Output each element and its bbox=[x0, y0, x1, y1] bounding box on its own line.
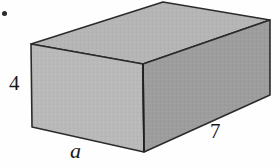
dimension-label-depth: a bbox=[70, 140, 81, 162]
figure-container: 4 a 7 bbox=[0, 0, 279, 167]
rectangular-prism-figure bbox=[0, 0, 279, 167]
vertical-front-edge bbox=[143, 64, 144, 152]
dimension-label-height: 4 bbox=[9, 73, 20, 94]
dimension-label-width: 7 bbox=[210, 121, 221, 142]
